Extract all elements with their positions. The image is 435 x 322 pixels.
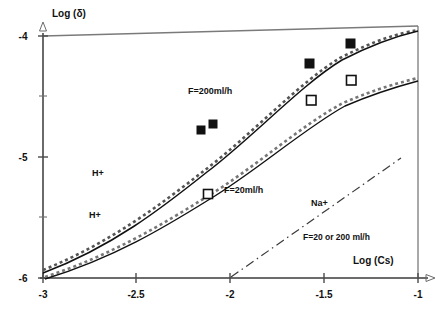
- y-tick-label-2: -6: [19, 273, 28, 284]
- chart-figure: Log (δ) Log (Cs) -4 -5 -6 -3 -2.5 -2 -1.…: [0, 0, 435, 322]
- y-tick-label-0: -4: [19, 31, 28, 42]
- x-tick-label-1: -2.5: [127, 289, 145, 300]
- y-tick-label-1: -5: [19, 152, 28, 163]
- annotation-ion-na: Na+: [311, 198, 328, 208]
- x-tick-label-2: -2: [226, 289, 235, 300]
- series2-marker-0: [204, 190, 213, 199]
- x-tick-label-4: -1: [414, 289, 423, 300]
- series2-marker-2: [347, 76, 357, 86]
- annotation-na-flow: F=20 or 200 ml/h: [303, 232, 370, 242]
- frame-top-border: [43, 26, 418, 36]
- annotation-series1-flow: F=200ml/h: [188, 86, 232, 96]
- y-axis-title: Log (δ): [52, 8, 86, 19]
- x-axis-title: Log (Cs): [353, 255, 394, 266]
- annotation-ion-h-upper: H+: [92, 168, 104, 178]
- annotation-series2-flow: F=20ml/h: [224, 185, 263, 195]
- y-axis-arrow: [40, 22, 47, 31]
- series1-marker-0: [197, 126, 206, 135]
- x-tick-label-0: -3: [39, 289, 48, 300]
- x-tick-label-3: -1.5: [315, 289, 333, 300]
- chart-svg: Log (δ) Log (Cs) -4 -5 -6 -3 -2.5 -2 -1.…: [0, 0, 435, 322]
- series1-marker-3: [346, 39, 356, 49]
- series1-marker-1: [209, 120, 218, 129]
- series1-marker-2: [305, 59, 315, 69]
- annotation-ion-h-lower: H+: [89, 210, 101, 220]
- series2-marker-1: [307, 96, 317, 106]
